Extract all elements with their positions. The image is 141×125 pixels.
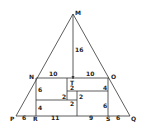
label-p: P xyxy=(10,115,15,122)
measure-mt: 16 xyxy=(75,46,83,53)
measure-sq: 6 xyxy=(116,114,120,121)
measure-r-mid: 11 xyxy=(51,114,59,121)
label-r: R xyxy=(33,115,38,122)
measure-right-upper: 4 xyxy=(103,84,107,91)
measure-to: 10 xyxy=(86,70,94,77)
measure-left-upper: 6 xyxy=(38,86,42,93)
measure-right-lower: 6 xyxy=(103,102,107,109)
label-n: N xyxy=(29,73,34,80)
measure-inner-bottom: 2 xyxy=(70,100,74,107)
label-q: Q xyxy=(131,115,136,122)
measure-pr: 6 xyxy=(22,114,26,121)
measure-inner-right: 2 xyxy=(79,93,83,100)
label-m: M xyxy=(75,9,81,16)
geometry-diagram: M N O P Q R S T 16 10 10 6 4 6 11 9 6 4 … xyxy=(0,0,141,125)
measure-left-lower: 4 xyxy=(38,104,42,111)
label-s: S xyxy=(106,115,110,122)
measure-inner-top: 2 xyxy=(70,84,74,91)
measure-nt: 10 xyxy=(49,70,57,77)
measure-inner-left: 2 xyxy=(62,93,66,100)
measure-mid-s: 9 xyxy=(89,114,93,121)
label-o: O xyxy=(111,73,116,80)
